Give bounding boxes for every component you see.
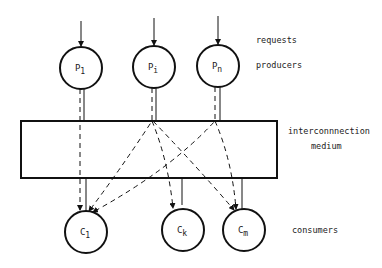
medium-label-line2: medium <box>311 141 342 151</box>
producer-label-pi: Pi <box>148 62 158 75</box>
consumers-label: consumers <box>292 225 338 235</box>
consumer-label-cm: Cm <box>238 225 248 238</box>
message-path-pn-cm <box>215 121 236 209</box>
producers-label: producers <box>256 60 302 70</box>
message-path-pi-c1 <box>89 88 152 211</box>
medium-label-line1: interconnnection <box>288 126 370 136</box>
producer-consumer-diagram: P1 Pi Pn C1 Ck Cm requests producers int… <box>0 0 382 268</box>
producer-label-p1: P1 <box>75 63 85 76</box>
consumer-label-c1: C1 <box>80 227 90 240</box>
consumer-label-ck: Ck <box>177 225 187 238</box>
requests-label: requests <box>256 35 297 45</box>
message-path-pi-ck <box>152 121 173 208</box>
producer-label-pn: Pn <box>212 61 222 74</box>
interconnection-medium-box <box>21 121 277 178</box>
message-path-pn-c1 <box>93 87 215 212</box>
